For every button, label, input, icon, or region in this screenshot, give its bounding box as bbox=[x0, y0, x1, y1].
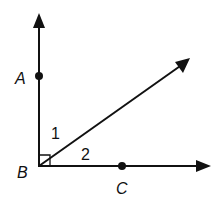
angle-label-2: 2 bbox=[81, 146, 90, 163]
arrowhead-diagonal-icon bbox=[175, 58, 190, 73]
arrowhead-up-icon bbox=[33, 13, 45, 28]
point-c bbox=[118, 162, 126, 170]
angle-diagram: A B C 1 2 bbox=[0, 0, 222, 205]
angle-label-1: 1 bbox=[51, 125, 60, 142]
point-a bbox=[35, 72, 43, 80]
label-c: C bbox=[116, 180, 128, 197]
label-b: B bbox=[17, 164, 28, 181]
arrowhead-right-icon bbox=[196, 160, 211, 172]
ray-diagonal bbox=[39, 64, 183, 166]
label-a: A bbox=[14, 70, 26, 87]
